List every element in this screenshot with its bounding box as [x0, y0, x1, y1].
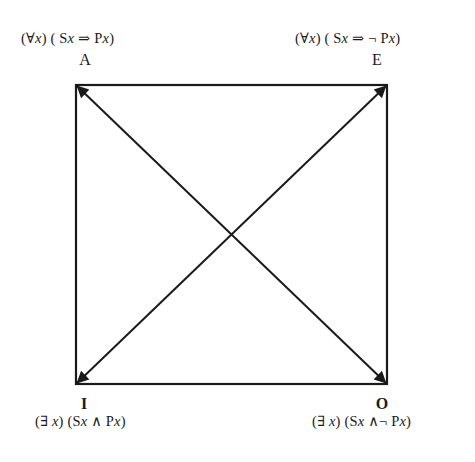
- formula-i-part: (∃: [35, 413, 52, 429]
- square-with-diagonals: [0, 0, 475, 462]
- formula-o-part: ) (S: [336, 413, 358, 429]
- formula-i-part: ) (S: [59, 413, 81, 429]
- formula-i-part: ): [121, 413, 126, 429]
- formula-o-part: ∧¬ P: [364, 413, 399, 429]
- formula-i-var: x: [114, 413, 121, 429]
- formula-o-part: (∃: [312, 413, 329, 429]
- corner-label-i: I: [81, 396, 87, 412]
- formula-o-part: ): [406, 413, 411, 429]
- square-of-opposition-diagram: (∀x) ( Sx ⇒ Px) A (∀x) ( Sx ⇒ ¬ Px) E I …: [0, 0, 475, 462]
- formula-o-var: x: [329, 413, 336, 429]
- corner-label-o: O: [376, 396, 388, 412]
- formula-i: (∃ x) (Sx ∧ Px): [35, 414, 126, 429]
- formula-i-var: x: [52, 413, 59, 429]
- formula-o: (∃ x) (Sx ∧¬ Px): [312, 414, 411, 429]
- formula-i-part: ∧ P: [87, 413, 114, 429]
